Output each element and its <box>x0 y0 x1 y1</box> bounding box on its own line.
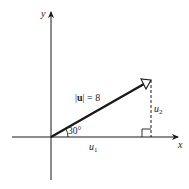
angle-label: 30° <box>68 126 82 136</box>
magnitude-suffix: | = 8 <box>83 92 101 103</box>
u2-subscript: 2 <box>159 108 163 116</box>
x-axis-label: x <box>177 139 183 150</box>
vector-diagram: y x |u| = 8 30° u1 u2 <box>0 0 189 189</box>
right-angle-marker <box>142 129 151 137</box>
y-axis-label: y <box>40 8 46 19</box>
u1-label: u1 <box>89 141 98 154</box>
u2-label: u2 <box>154 103 163 116</box>
u1-subscript: 1 <box>94 146 98 154</box>
magnitude-label: |u| = 8 <box>75 92 100 103</box>
